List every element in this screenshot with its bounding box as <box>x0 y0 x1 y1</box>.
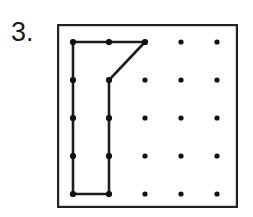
board-frame <box>58 25 237 207</box>
peg-dot <box>142 191 147 196</box>
polygon-vertex-dot <box>106 115 112 121</box>
polygon-vertex-dot <box>70 39 76 45</box>
polygon-vertex-dot <box>106 153 112 159</box>
peg-dot <box>178 115 183 120</box>
peg-dot <box>178 39 183 44</box>
peg-dot <box>214 191 219 196</box>
peg-dot <box>214 153 219 158</box>
peg-dot <box>142 115 147 120</box>
peg-dot <box>178 191 183 196</box>
polygon-vertex-dot <box>142 39 148 45</box>
polygon-vertex-dot <box>106 191 112 197</box>
geoboard-canvas <box>0 0 253 217</box>
peg-dot <box>178 153 183 158</box>
polygon-vertex-dot <box>70 191 76 197</box>
polygon-vertex-dot <box>70 77 76 83</box>
peg-dot <box>142 153 147 158</box>
polygon-vertex-dot <box>70 153 76 159</box>
geoboard-exercise: 3. <box>0 0 253 217</box>
peg-dot <box>214 115 219 120</box>
polygon-vertex-dot <box>106 39 112 45</box>
peg-dot <box>178 77 183 82</box>
peg-dot <box>214 77 219 82</box>
polygon-vertex-dot <box>70 115 76 121</box>
geoboard-figure <box>0 0 253 217</box>
peg-dot <box>214 39 219 44</box>
peg-dot <box>142 77 147 82</box>
polygon-vertex-dot <box>106 77 112 83</box>
